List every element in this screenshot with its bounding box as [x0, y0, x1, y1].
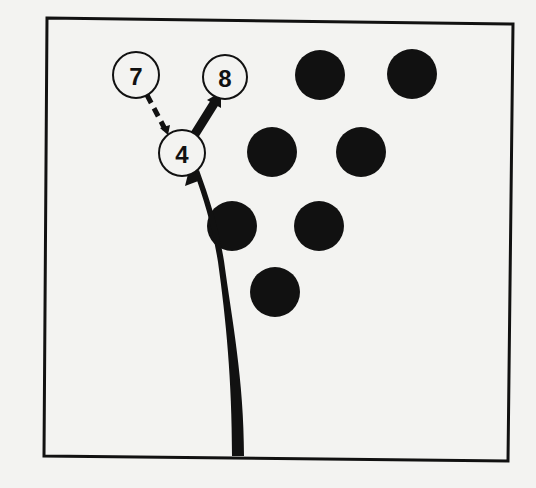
labeled-pins: 784 [113, 52, 247, 176]
pin4-to-pin7-dashed-line [147, 95, 166, 131]
pin-label: 7 [129, 63, 142, 90]
standing-pin [294, 201, 344, 251]
pin-7: 7 [113, 52, 159, 98]
standing-pin [387, 49, 437, 99]
pin4-to-pin8-arrow [195, 102, 215, 134]
pin-4: 4 [159, 130, 205, 176]
standing-pin [247, 127, 297, 177]
standing-pin [336, 127, 386, 177]
standing-pin [250, 267, 300, 317]
bowling-pin-diagram: 784 [0, 0, 536, 488]
pin-8: 8 [203, 55, 247, 99]
pin-label: 8 [218, 65, 231, 92]
standing-pin [295, 50, 345, 100]
pin-label: 4 [175, 141, 189, 168]
